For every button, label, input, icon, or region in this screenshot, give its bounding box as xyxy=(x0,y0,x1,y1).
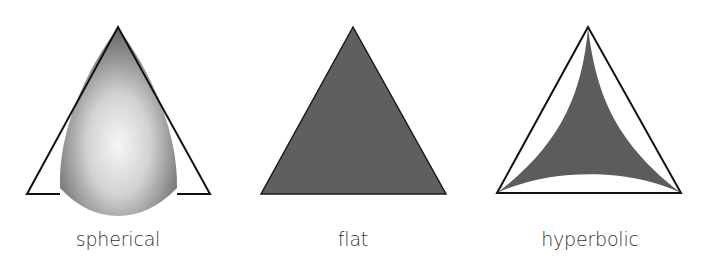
label-flat: flat xyxy=(273,228,433,250)
label-hyperbolic: hyperbolic xyxy=(510,228,670,250)
label-spherical: spherical xyxy=(38,228,198,250)
hyperbolic-curved-surface xyxy=(497,28,681,193)
spherical-curved-surface xyxy=(60,28,177,216)
hyperbolic-triangle xyxy=(497,27,681,193)
spherical-triangle xyxy=(27,27,210,216)
flat-triangle xyxy=(261,27,446,194)
flat-triangle-shape xyxy=(261,27,446,194)
